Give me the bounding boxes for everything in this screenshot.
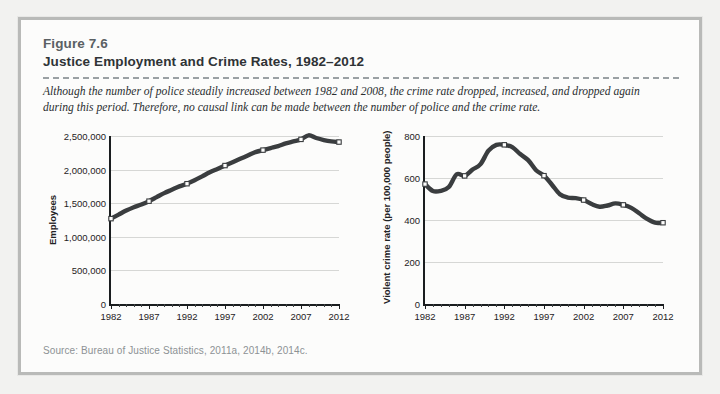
figure-number: Figure 7.6 [43, 36, 108, 51]
y-tick-label: 2,000,000 [64, 164, 106, 175]
x-tick-label: 2012 [652, 311, 673, 322]
x-tick-minor [248, 304, 249, 307]
x-tick-minor [496, 304, 497, 307]
figure-title: Justice Employment and Crime Rates, 1982… [43, 54, 364, 69]
title-divider [43, 77, 679, 79]
x-tick-minor [647, 304, 648, 307]
x-tick-minor [202, 304, 203, 307]
x-tick-minor [473, 304, 474, 307]
x-tick-minor [560, 304, 561, 307]
x-tick-label: 1992 [494, 311, 515, 322]
x-tick-label: 1982 [100, 311, 121, 322]
x-tick-minor [441, 304, 442, 307]
x-tick-minor [457, 304, 458, 307]
x-tick-minor [449, 304, 450, 307]
x-tick-major [465, 304, 466, 309]
x-tick-major [225, 304, 226, 309]
x-tick-minor [576, 304, 577, 307]
x-tick-major [663, 304, 664, 309]
figure-frame: Figure 7.6 Justice Employment and Crime … [18, 17, 702, 375]
series-employment [111, 136, 339, 304]
y-tick-label: 1,500,000 [64, 198, 106, 209]
x-tick-major [301, 304, 302, 309]
x-tick-label: 2012 [328, 311, 349, 322]
series-crime [425, 136, 663, 304]
x-tick-minor [233, 304, 234, 307]
x-tick-major [425, 304, 426, 309]
figure-source: Source: Bureau of Justice Statistics, 20… [43, 345, 308, 356]
x-tick-label: 2002 [573, 311, 594, 322]
x-tick-label: 1987 [454, 311, 475, 322]
x-tick-minor [255, 304, 256, 307]
x-tick-minor [655, 304, 656, 307]
x-tick-minor [552, 304, 553, 307]
x-tick-major [584, 304, 585, 309]
y-axis-title-crime: Violent crime rate (per 100,000 people) [381, 136, 392, 304]
x-tick-major [263, 304, 264, 309]
x-tick-minor [172, 304, 173, 307]
figure-caption: Although the number of police steadily i… [43, 84, 673, 115]
x-tick-minor [179, 304, 180, 307]
x-tick-major [623, 304, 624, 309]
x-tick-minor [126, 304, 127, 307]
x-tick-minor [141, 304, 142, 307]
x-tick-minor [316, 304, 317, 307]
x-tick-minor [488, 304, 489, 307]
x-tick-minor [536, 304, 537, 307]
plot-area-employment: 0500,0001,000,0001,500,0002,000,0002,500… [109, 136, 339, 306]
x-tick-major [111, 304, 112, 309]
x-tick-major [187, 304, 188, 309]
x-tick-minor [119, 304, 120, 307]
x-tick-minor [331, 304, 332, 307]
x-tick-minor [520, 304, 521, 307]
x-tick-minor [631, 304, 632, 307]
x-tick-minor [615, 304, 616, 307]
y-tick-label: 500,000 [72, 265, 106, 276]
y-tick-label: 0 [415, 299, 420, 310]
y-tick-label: 1,000,000 [64, 231, 106, 242]
x-tick-label: 1987 [138, 311, 159, 322]
x-tick-minor [528, 304, 529, 307]
y-tick-label: 600 [404, 173, 420, 184]
x-tick-minor [568, 304, 569, 307]
x-tick-label: 1997 [533, 311, 554, 322]
x-tick-label: 2007 [290, 311, 311, 322]
x-tick-minor [324, 304, 325, 307]
x-tick-minor [293, 304, 294, 307]
x-tick-minor [607, 304, 608, 307]
x-tick-major [504, 304, 505, 309]
plot-area-crime: 0200400600800198219871992199720022007201… [423, 136, 663, 306]
chart-employment: Employees 0500,0001,000,0001,500,0002,00… [37, 130, 367, 335]
x-tick-label: 2002 [252, 311, 273, 322]
x-tick-minor [195, 304, 196, 307]
x-tick-minor [134, 304, 135, 307]
x-tick-minor [309, 304, 310, 307]
y-tick-label: 400 [404, 215, 420, 226]
x-tick-label: 1992 [176, 311, 197, 322]
x-tick-minor [164, 304, 165, 307]
x-tick-minor [639, 304, 640, 307]
x-tick-minor [278, 304, 279, 307]
x-tick-minor [240, 304, 241, 307]
y-tick-label: 200 [404, 257, 420, 268]
y-tick-label: 2,500,000 [64, 131, 106, 142]
x-tick-minor [512, 304, 513, 307]
x-tick-minor [481, 304, 482, 307]
y-tick-label: 800 [404, 131, 420, 142]
x-tick-major [149, 304, 150, 309]
x-tick-minor [600, 304, 601, 307]
chart-crime: Violent crime rate (per 100,000 people) … [371, 130, 689, 335]
x-tick-minor [271, 304, 272, 307]
y-tick-label: 0 [101, 299, 106, 310]
x-tick-label: 1997 [214, 311, 235, 322]
x-tick-label: 1982 [414, 311, 435, 322]
y-axis-title-employment: Employees [47, 136, 58, 304]
x-tick-major [339, 304, 340, 309]
x-tick-minor [433, 304, 434, 307]
x-tick-minor [217, 304, 218, 307]
x-tick-label: 2007 [613, 311, 634, 322]
x-tick-minor [210, 304, 211, 307]
x-tick-minor [157, 304, 158, 307]
x-tick-major [544, 304, 545, 309]
x-tick-minor [592, 304, 593, 307]
